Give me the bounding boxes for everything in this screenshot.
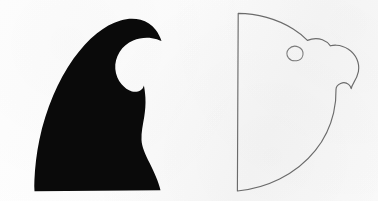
line-outline-panel bbox=[237, 13, 358, 191]
eagle-head-outline bbox=[237, 13, 358, 191]
illustration-canvas: Figure-ground eagle head illustration Tw… bbox=[0, 0, 378, 201]
figure-ground-illustration-svg bbox=[0, 0, 378, 201]
eagle-eye-outline bbox=[287, 46, 303, 60]
eagle-head-silhouette bbox=[34, 19, 161, 191]
black-silhouette-panel bbox=[34, 19, 161, 191]
